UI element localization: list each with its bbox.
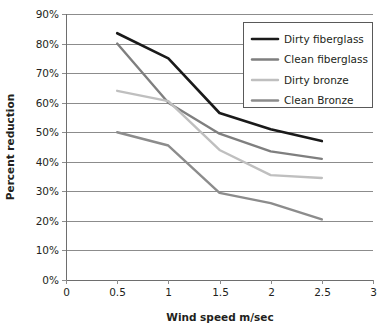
x-tick-label: 2: [268, 286, 275, 298]
legend-label-4: Clean Bronze: [284, 94, 353, 106]
y-axis-title: Percent reduction: [4, 94, 16, 200]
x-tick-label: 0: [63, 286, 70, 298]
x-tick-label: 1: [165, 286, 172, 298]
y-tick-label: 30%: [36, 185, 59, 197]
x-axis-title: Wind speed m/sec: [166, 311, 273, 323]
x-tick-label: 1.5: [212, 286, 229, 298]
x-tick-label: 0.5: [109, 286, 126, 298]
y-tick-label: 50%: [36, 126, 59, 138]
line-chart: 0%10%20%30%40%50%60%70%80%90% 00.511.522…: [0, 0, 390, 329]
x-tick-label: 2.5: [314, 286, 331, 298]
y-tick-label: 20%: [36, 215, 59, 227]
y-tick-label: 90%: [36, 8, 59, 20]
chart-container: 0%10%20%30%40%50%60%70%80%90% 00.511.522…: [0, 0, 390, 329]
y-tick-label: 70%: [36, 67, 59, 79]
y-tick-label: 80%: [36, 38, 59, 50]
y-tick-label: 10%: [36, 244, 59, 256]
y-tick-label: 0%: [42, 274, 59, 286]
legend-label-2: Clean fiberglass: [284, 53, 368, 65]
y-tick-label: 60%: [36, 97, 59, 109]
y-axis-tick-labels: 0%10%20%30%40%50%60%70%80%90%: [36, 8, 66, 286]
x-axis-tick-labels: 00.511.522.53: [63, 286, 377, 298]
x-tick-label: 3: [370, 286, 377, 298]
legend: Dirty fiberglassClean fiberglassDirty br…: [244, 23, 373, 108]
legend-label-3: Dirty bronze: [284, 74, 349, 86]
legend-label-1: Dirty fiberglass: [284, 33, 364, 45]
y-tick-label: 40%: [36, 156, 59, 168]
